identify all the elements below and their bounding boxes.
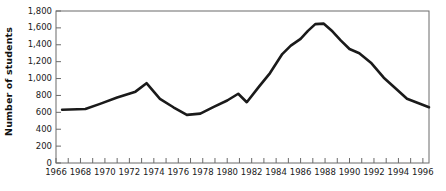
plot-frame [56,11,429,163]
data-series-line [62,24,429,115]
y-axis-ticks [56,11,61,163]
x-axis-ticks [56,158,423,163]
line-chart: Number of students 02004006008001,0001,2… [0,0,446,191]
plot-area [0,0,446,191]
